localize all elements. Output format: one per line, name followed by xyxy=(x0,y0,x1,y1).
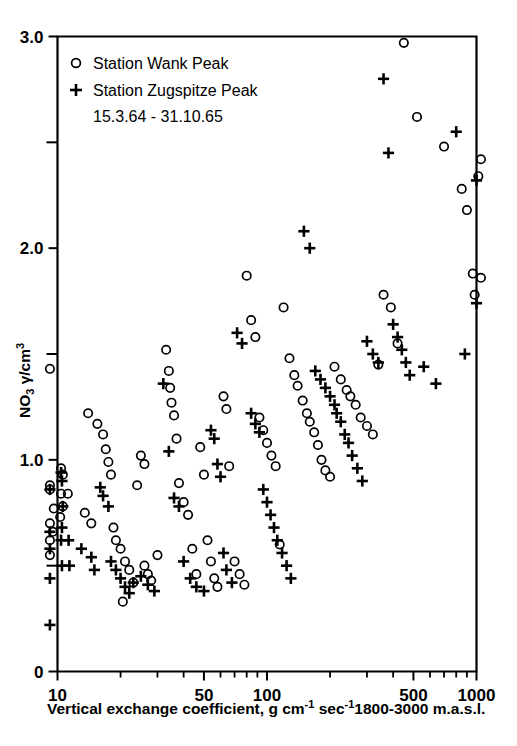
data-point-circle xyxy=(172,434,180,442)
data-point-circle xyxy=(293,382,301,390)
data-point-circle xyxy=(140,460,148,468)
data-point-plus xyxy=(352,463,363,474)
legend: Station Wank Peak Station Zugspitze Peak… xyxy=(70,55,259,125)
data-point-plus xyxy=(64,560,75,571)
legend-date-range: 15.3.64 - 31.10.65 xyxy=(93,108,223,125)
data-point-plus xyxy=(149,585,160,596)
data-point-circle xyxy=(133,481,141,489)
legend-plus-marker-icon xyxy=(70,84,82,96)
y-tick-label: 1.0 xyxy=(20,451,44,470)
data-point-plus xyxy=(285,573,296,584)
data-point-plus xyxy=(103,501,114,512)
data-point-circle xyxy=(477,274,485,282)
data-point-circle xyxy=(200,470,208,478)
data-point-circle xyxy=(119,597,127,605)
data-point-circle xyxy=(314,441,322,449)
x-axis-title-main: Vertical exchange coefficient, g cm xyxy=(47,700,305,717)
data-point-plus xyxy=(272,535,283,546)
data-point-circle xyxy=(104,458,112,466)
y-axis-title-base: NO xyxy=(16,395,33,418)
legend-circle-marker-icon xyxy=(72,59,81,68)
data-point-plus xyxy=(76,543,87,554)
data-point-circle xyxy=(93,420,101,428)
data-point-plus xyxy=(226,577,237,588)
x-axis-title-tail: 1800-3000 m.a.s.l. xyxy=(354,700,485,717)
x-axis-title-exp1: -1 xyxy=(305,698,315,710)
data-point-plus xyxy=(357,475,368,486)
data-point-circle xyxy=(116,545,124,553)
data-point-plus xyxy=(215,471,226,482)
data-point-plus xyxy=(361,336,372,347)
data-point-circle xyxy=(369,430,377,438)
x-axis-title-mid: sec xyxy=(314,700,345,717)
data-point-circle xyxy=(87,519,95,527)
data-point-plus xyxy=(89,564,100,575)
data-point-circle xyxy=(413,113,421,121)
data-point-plus xyxy=(218,547,229,558)
data-point-plus xyxy=(44,573,55,584)
data-point-circle xyxy=(477,155,485,163)
x-axis-title: Vertical exchange coefficient, g cm-1 se… xyxy=(47,698,485,717)
data-point-circle xyxy=(306,418,314,426)
data-point-plus xyxy=(418,361,429,372)
data-point-circle xyxy=(463,206,471,214)
data-point-circle xyxy=(140,561,148,569)
data-point-circle xyxy=(337,375,345,383)
data-point-circle xyxy=(175,479,183,487)
data-point-plus xyxy=(63,535,74,546)
data-point-plus xyxy=(430,378,441,389)
data-point-plus xyxy=(281,560,292,571)
legend-label-wank: Station Wank Peak xyxy=(93,55,229,72)
data-point-circle xyxy=(310,428,318,436)
data-point-plus xyxy=(383,147,394,158)
data-point-circle xyxy=(225,462,233,470)
x-axis-title-exp2: -1 xyxy=(345,698,355,710)
data-point-circle xyxy=(400,39,408,47)
data-point-circle xyxy=(219,392,227,400)
x-axis-ticks xyxy=(58,672,477,681)
data-point-plus xyxy=(178,556,189,567)
data-point-plus xyxy=(221,564,232,575)
data-point-circle xyxy=(326,473,334,481)
data-point-circle xyxy=(107,470,115,478)
legend-label-zugspitze: Station Zugspitze Peak xyxy=(93,82,259,99)
data-point-plus xyxy=(268,522,279,533)
data-point-plus xyxy=(86,552,97,563)
data-point-circle xyxy=(188,545,196,553)
data-point-circle xyxy=(379,291,387,299)
data-point-circle xyxy=(285,354,293,362)
data-point-circle xyxy=(99,430,107,438)
data-point-circle xyxy=(356,413,364,421)
data-point-circle xyxy=(84,409,92,417)
data-point-plus xyxy=(378,73,389,84)
plot-canvas: 10501005001000 01.02.03.0 Station Wank P… xyxy=(0,0,517,746)
data-point-plus xyxy=(261,497,272,508)
data-point-circle xyxy=(121,557,129,565)
data-point-circle xyxy=(109,523,117,531)
data-point-plus xyxy=(142,579,153,590)
data-point-plus xyxy=(44,619,55,630)
data-point-circle xyxy=(230,557,238,565)
data-point-plus xyxy=(298,226,309,237)
data-point-circle xyxy=(247,316,255,324)
y-axis-title: NO3 γ/cm3 xyxy=(14,343,36,418)
data-point-circle xyxy=(303,409,311,417)
scatter-plot-figure: 10501005001000 01.02.03.0 Station Wank P… xyxy=(0,0,517,746)
series-station-zugspitze-peak xyxy=(44,73,482,630)
data-point-plus xyxy=(163,446,174,457)
data-point-circle xyxy=(267,451,275,459)
data-point-circle xyxy=(351,401,359,409)
data-point-plus xyxy=(388,319,399,330)
data-point-circle xyxy=(184,511,192,519)
data-point-circle xyxy=(203,536,211,544)
data-point-circle xyxy=(298,396,306,404)
data-point-circle xyxy=(102,445,110,453)
data-point-circle xyxy=(170,411,178,419)
data-point-plus xyxy=(57,501,68,512)
data-point-circle xyxy=(165,367,173,375)
y-axis-ticks xyxy=(47,37,58,672)
data-point-plus xyxy=(471,175,482,186)
data-point-circle xyxy=(46,365,54,373)
data-point-plus xyxy=(232,327,243,338)
data-point-circle xyxy=(263,439,271,447)
